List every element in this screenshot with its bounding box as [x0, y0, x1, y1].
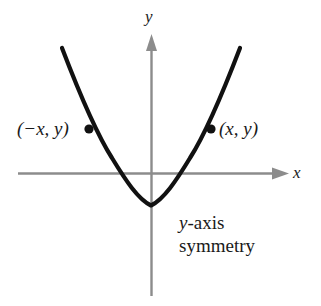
caption-line-symmetry: symmetry [179, 236, 255, 255]
point-label-right: (x, y) [219, 119, 258, 138]
caption-line-y-axis: y-axis [179, 213, 224, 232]
point-marker-right [206, 124, 215, 133]
graph-canvas [0, 0, 321, 306]
point-marker-left [84, 124, 93, 133]
caption-axis-text: -axis [187, 212, 224, 233]
x-axis-arrowhead [272, 168, 289, 180]
x-axis-label: x [293, 164, 301, 181]
y-axis-label: y [145, 8, 153, 25]
y-axis-arrowhead [146, 34, 157, 51]
parabola-symmetry-figure: y x (−x, y) (x, y) y-axis symmetry [0, 0, 321, 306]
point-label-left: (−x, y) [17, 119, 69, 138]
